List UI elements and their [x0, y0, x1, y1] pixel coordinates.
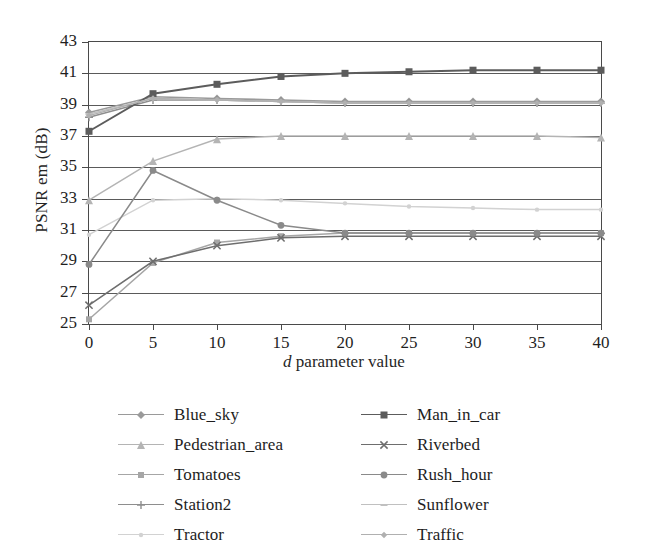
- legend-label: Tractor: [174, 525, 224, 545]
- data-point-marker: [406, 68, 413, 75]
- x-tick-mark: [601, 324, 602, 330]
- figure-psnr-vs-d: PSNR em (dB) 25272931333537394143 051015…: [0, 0, 645, 556]
- series-line: [89, 236, 601, 305]
- legend-item[interactable]: Blue_sky: [118, 400, 348, 430]
- chart-area: PSNR em (dB) 25272931333537394143 051015…: [0, 0, 645, 390]
- legend-marker-glyph: [118, 408, 164, 422]
- data-point-marker: [278, 222, 285, 229]
- legend-label: Man_in_car: [417, 405, 500, 425]
- series-rush-hour: [86, 167, 605, 268]
- legend-marker-circle-icon: [361, 468, 407, 482]
- legend-marker-glyph: [361, 498, 407, 512]
- data-point-marker: [278, 73, 285, 80]
- data-point-marker: [149, 157, 157, 165]
- legend-marker-glyph: [361, 468, 407, 482]
- x-tick-mark: [217, 324, 218, 330]
- data-point-marker: [87, 233, 91, 237]
- x-tick-label: 20: [325, 333, 365, 353]
- y-tick-mark: [82, 105, 89, 106]
- legend-marker-dash-icon: [361, 498, 407, 512]
- legend: Blue_skyPedestrian_areaTomatoesStation2T…: [118, 400, 588, 550]
- data-point-marker: [470, 67, 477, 74]
- legend-marker-glyph: [361, 528, 407, 542]
- legend-marker-glyph: [118, 528, 164, 542]
- y-tick-label: 43: [60, 31, 77, 51]
- data-point-marker: [406, 230, 413, 237]
- data-point-marker: [470, 230, 477, 237]
- legend-marker-diamond-icon: [118, 408, 164, 422]
- y-tick-mark: [82, 230, 89, 231]
- legend-marker-glyph: [118, 438, 164, 452]
- plot-frame: 25272931333537394143 0510152025303540: [88, 41, 602, 325]
- legend-item[interactable]: Tractor: [118, 520, 348, 550]
- y-tick-mark: [82, 42, 89, 43]
- legend-marker-glyph: [118, 498, 164, 512]
- legend-item[interactable]: Sunflower: [361, 490, 591, 520]
- y-axis-title: PSNR em (dB): [6, 0, 26, 60]
- y-axis-title-text: PSNR em (dB): [32, 60, 52, 300]
- legend-item[interactable]: Station2: [118, 490, 348, 520]
- x-axis-title-text: parameter value: [292, 352, 405, 371]
- series-line: [89, 233, 601, 319]
- y-tick-mark: [82, 136, 89, 137]
- legend-marker-small-diamond-icon: [361, 528, 407, 542]
- legend-label: Blue_sky: [174, 405, 239, 425]
- x-tick-label: 40: [581, 333, 621, 353]
- data-point-marker: [86, 316, 92, 322]
- data-point-marker: [85, 302, 92, 309]
- x-tick-mark: [153, 324, 154, 330]
- x-tick-label: 0: [69, 333, 109, 353]
- x-tick-mark: [345, 324, 346, 330]
- series-layer: [89, 42, 601, 324]
- data-point-marker: [150, 167, 157, 174]
- data-point-marker: [214, 197, 221, 204]
- data-point-marker: [535, 207, 539, 211]
- y-tick-label: 35: [60, 156, 77, 176]
- x-axis-title-variable: d: [283, 352, 292, 371]
- legend-label: Rush_hour: [417, 465, 493, 485]
- legend-item[interactable]: Man_in_car: [361, 400, 591, 430]
- data-point-marker: [599, 207, 603, 211]
- legend-marker-square-icon: [118, 468, 164, 482]
- data-point-marker: [534, 67, 541, 74]
- x-tick-mark: [89, 324, 90, 330]
- x-tick-mark: [473, 324, 474, 330]
- x-tick-label: 15: [261, 333, 301, 353]
- series-line: [89, 171, 601, 265]
- series-tomatoes: [86, 230, 604, 322]
- data-point-marker: [86, 261, 93, 268]
- x-tick-mark: [281, 324, 282, 330]
- legend-label: Sunflower: [417, 495, 489, 515]
- x-axis-title: d parameter value: [88, 352, 600, 372]
- legend-item[interactable]: Traffic: [361, 520, 591, 550]
- y-tick-mark: [82, 73, 89, 74]
- legend-label: Pedestrian_area: [174, 435, 283, 455]
- data-point-marker: [342, 70, 349, 77]
- x-tick-mark: [537, 324, 538, 330]
- x-tick-label: 5: [133, 333, 173, 353]
- data-point-marker: [279, 198, 283, 202]
- legend-label: Tomatoes: [174, 465, 241, 485]
- data-point-marker: [471, 206, 475, 210]
- y-tick-label: 39: [60, 94, 77, 114]
- legend-marker-cross-icon: [361, 438, 407, 452]
- legend-item[interactable]: Rush_hour: [361, 460, 591, 490]
- legend-marker-glyph: [361, 408, 407, 422]
- series-station2: [85, 96, 605, 121]
- legend-label: Station2: [174, 495, 231, 515]
- legend-item[interactable]: Tomatoes: [118, 460, 348, 490]
- legend-marker-dot-icon: [118, 528, 164, 542]
- x-tick-mark: [409, 324, 410, 330]
- y-tick-label: 25: [60, 313, 77, 333]
- legend-marker-triangle-icon: [118, 438, 164, 452]
- y-tick-label: 29: [60, 250, 77, 270]
- data-point-marker: [598, 67, 605, 74]
- x-tick-label: 25: [389, 333, 429, 353]
- legend-item[interactable]: Riverbed: [361, 430, 591, 460]
- x-tick-label: 10: [197, 333, 237, 353]
- data-point-marker: [598, 230, 605, 237]
- legend-label: Riverbed: [417, 435, 480, 455]
- legend-marker-glyph: [361, 438, 407, 452]
- series-line: [89, 136, 601, 200]
- legend-item[interactable]: Pedestrian_area: [118, 430, 348, 460]
